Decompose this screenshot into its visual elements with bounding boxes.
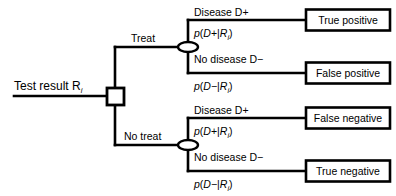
prob-close: ) (229, 125, 233, 137)
treat-chance-node (178, 42, 198, 52)
outcome-label-wrap-true-positive: True positive (304, 10, 392, 31)
prob-cond-sub: i (227, 131, 229, 140)
state-label-text: No disease D (194, 151, 257, 163)
probability-treat-disease: p(D+|Ri) (194, 28, 233, 39)
prob-event: D (203, 125, 211, 137)
probability-notreat-nodisease: p(D−|Ri) (194, 179, 233, 190)
probability-notreat-disease: p(D+|Ri) (194, 126, 233, 137)
state-label-text: Disease D (194, 6, 242, 18)
no-treat-chance-node (178, 140, 198, 150)
prob-cond-sub: i (227, 33, 229, 42)
prob-cond-sub: i (227, 184, 229, 193)
state-label-text: Disease D (194, 104, 242, 116)
state-label-text: No disease D (194, 53, 257, 65)
prob-close: ) (229, 178, 233, 190)
state-label-sign: + (242, 6, 248, 18)
outcome-label-true-positive: True positive (318, 14, 378, 26)
outcome-label-wrap-false-negative: False negative (304, 108, 392, 129)
root-label: Test result Ri (14, 80, 82, 92)
outcome-label-wrap-true-negative: True negative (304, 161, 392, 182)
state-label-sign: − (257, 151, 263, 163)
state-label-notreat-nodisease: No disease D− (194, 152, 263, 163)
prob-event: D (203, 178, 211, 190)
outcome-label-true-negative: True negative (316, 165, 380, 177)
outcome-label-false-positive: False positive (316, 67, 380, 79)
state-label-treat-nodisease: No disease D− (194, 54, 263, 65)
outcome-label-wrap-false-positive: False positive (304, 63, 392, 84)
state-label-sign: − (257, 53, 263, 65)
state-label-treat-disease: Disease D+ (194, 7, 249, 18)
branch-label-treat: Treat (131, 33, 155, 44)
state-label-notreat-disease: Disease D+ (194, 105, 249, 116)
decision-node-square (107, 88, 124, 105)
outcome-label-false-negative: False negative (314, 112, 382, 124)
prob-event: D (203, 27, 211, 39)
prob-close: ) (229, 80, 233, 92)
root-label-text: Test result R (14, 79, 81, 93)
prob-cond-sub: i (227, 86, 229, 95)
decision-tree-diagram: Test result Ri Treat No treat Disease D+… (0, 0, 396, 196)
prob-close: ) (229, 27, 233, 39)
state-label-sign: + (242, 104, 248, 116)
probability-treat-nodisease: p(D−|Ri) (194, 81, 233, 92)
branch-label-no-treat: No treat (124, 131, 161, 142)
prob-event: D (203, 80, 211, 92)
